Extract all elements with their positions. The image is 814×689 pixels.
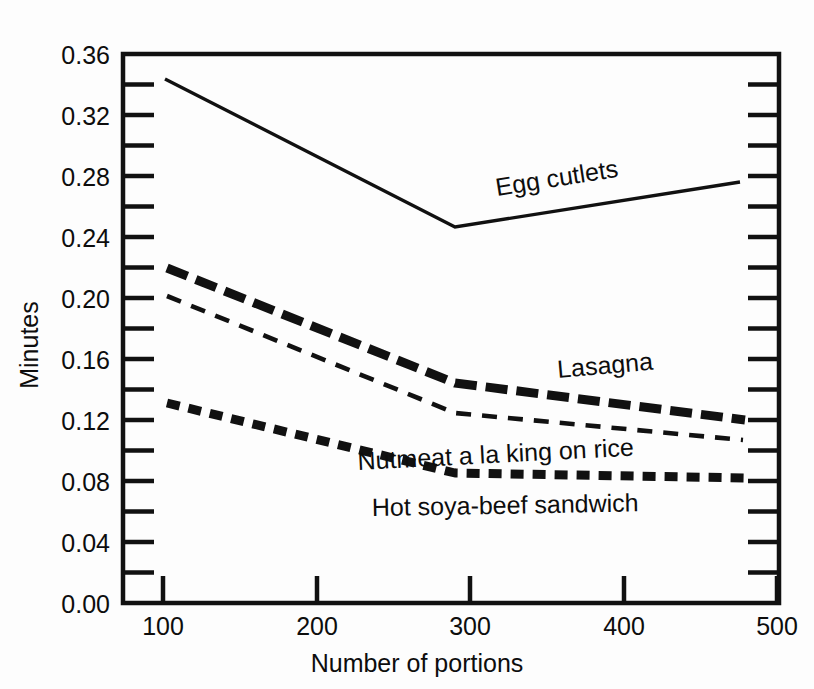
x-axis-ticks xyxy=(163,576,777,603)
y-tick-label: 0.12 xyxy=(61,407,110,435)
y-tick-labels: 0.36 0.32 0.28 0.24 0.20 0.16 0.12 0.08 … xyxy=(61,41,110,618)
x-axis-title: Number of portions xyxy=(311,649,524,677)
x-tick-label: 400 xyxy=(603,612,645,640)
x-tick-labels: 100 200 300 400 500 xyxy=(142,612,798,640)
plot-frame xyxy=(123,54,779,603)
series-label-egg-cutlets: Egg cutlets xyxy=(493,154,620,201)
series-label-nutmeat: Nutmeat a la king on rice xyxy=(357,433,635,475)
chart-figure: 0.36 0.32 0.28 0.24 0.20 0.16 0.12 0.08 … xyxy=(0,0,814,689)
y-tick-label: 0.36 xyxy=(61,41,110,69)
y-axis-title: Minutes xyxy=(15,301,43,389)
series-lasagna xyxy=(167,268,745,420)
x-tick-label: 200 xyxy=(296,612,338,640)
y-axis-ticks-right xyxy=(748,85,779,573)
y-tick-label: 0.32 xyxy=(61,102,110,130)
y-tick-label: 0.20 xyxy=(61,285,110,313)
series-egg-cutlets xyxy=(165,79,740,227)
line-chart: 0.36 0.32 0.28 0.24 0.20 0.16 0.12 0.08 … xyxy=(0,0,814,689)
x-tick-label: 300 xyxy=(449,612,491,640)
series-label-lasagna: Lasagna xyxy=(556,347,654,383)
y-tick-label: 0.08 xyxy=(61,468,110,496)
y-tick-label: 0.24 xyxy=(61,224,110,252)
series-label-hot-soya-beef: Hot soya-beef sandwich xyxy=(372,488,639,521)
series-nutmeat-a-la-king-on-rice xyxy=(167,296,743,440)
y-axis-ticks-left xyxy=(123,85,154,573)
x-tick-label: 500 xyxy=(756,612,798,640)
y-tick-label: 0.16 xyxy=(61,346,110,374)
y-tick-label: 0.00 xyxy=(61,590,110,618)
x-tick-label: 100 xyxy=(142,612,184,640)
y-tick-label: 0.04 xyxy=(61,529,110,557)
y-tick-label: 0.28 xyxy=(61,163,110,191)
